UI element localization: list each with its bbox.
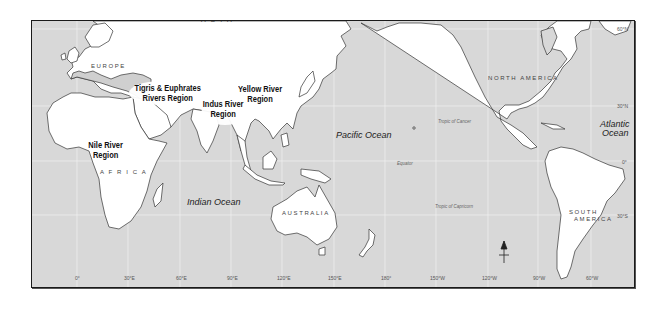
lon-60e-label: 60°E xyxy=(176,276,187,281)
south-america-label-2: AMERICA xyxy=(574,216,613,222)
lon-150w-label: 150°W xyxy=(430,276,445,281)
indian-ocean-label: Indian Ocean xyxy=(187,198,241,207)
borneo xyxy=(263,151,277,169)
hudson-bay xyxy=(541,27,557,55)
asia-label: A S I A xyxy=(201,20,233,23)
lon-60w-label: 60°W xyxy=(586,276,598,281)
tigris-line2: Rivers Region xyxy=(135,94,201,103)
lat-30s-label: 30°S xyxy=(617,214,628,219)
yellow-line2: Region xyxy=(238,95,282,104)
australia-label: AUSTRALIA xyxy=(282,210,330,216)
lat-60n-label: 60°N xyxy=(617,27,628,32)
lon-120e-label: 120°E xyxy=(277,276,291,281)
lon-0-label: 0° xyxy=(75,276,80,281)
yellow-line1: Yellow River xyxy=(238,85,282,94)
europe-label: EUROPE xyxy=(91,63,126,69)
tigris-line1: Tigris & Euphrates xyxy=(135,84,201,93)
atlantic-ocean-label-2: Ocean xyxy=(602,129,629,138)
lon-180-label: 180° xyxy=(381,276,391,281)
nile-line1: Nile River xyxy=(88,141,123,150)
nile-region-label: Nile River Region xyxy=(88,141,123,159)
lon-90e-label: 90°E xyxy=(227,276,238,281)
lon-120w-label: 120°W xyxy=(482,276,497,281)
nile-line2: Region xyxy=(88,151,123,160)
new-guinea xyxy=(301,169,331,183)
lon-30e-label: 30°E xyxy=(124,276,135,281)
tropic-of-cancer-label: Tropic of Cancer xyxy=(438,120,471,125)
yellow-river-region-label: Yellow River Region xyxy=(238,85,282,103)
indus-line2: Region xyxy=(203,110,244,119)
new-zealand xyxy=(359,229,375,257)
lat-30n-label: 30°N xyxy=(617,104,628,109)
africa-label: A F R I C A xyxy=(100,169,147,175)
lat-0-label: 0° xyxy=(622,160,627,165)
north-america-label: NORTH AMERICA xyxy=(488,75,559,81)
madagascar xyxy=(153,183,163,207)
south-america-label-1: SOUTH xyxy=(569,209,598,215)
lon-90w-label: 90°W xyxy=(533,276,545,281)
cuba xyxy=(541,123,565,129)
tropic-of-capricorn-label: Tropic of Capricorn xyxy=(435,205,473,210)
world-map-frame: Nile River Region Tigris & Euphrates Riv… xyxy=(31,20,635,288)
north-america xyxy=(361,21,591,149)
tigris-euphrates-region-label: Tigris & Euphrates Rivers Region xyxy=(135,84,201,102)
lon-150e-label: 150°E xyxy=(328,276,342,281)
north-arrow-icon xyxy=(499,241,509,263)
equator-label: Equator xyxy=(397,162,413,167)
pacific-ocean-label: Pacific Ocean xyxy=(336,131,392,140)
